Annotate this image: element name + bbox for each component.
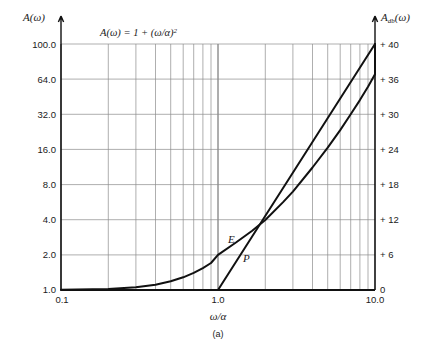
y-tick-label: 32.0: [38, 109, 57, 120]
curve-annotation-E: E: [227, 233, 235, 245]
x-tick-label: 0.1: [55, 294, 68, 305]
y-tick-label-db: + 6: [380, 249, 393, 260]
x-tick-label: 1.0: [211, 294, 224, 305]
x-tick-label: 10.0: [366, 294, 385, 305]
y-tick-label: 8.0: [43, 179, 56, 190]
y-tick-label: 64.0: [38, 74, 57, 85]
chart-svg: A(ω) = 1 + (ω/α)2 A(ω) Adb(ω) 100.0 64.0…: [0, 0, 436, 348]
y-tick-label-db: + 40: [380, 39, 399, 50]
y-axis-title-left: A(ω): [22, 11, 45, 24]
y-axis-title-right: Adb(ω): [380, 11, 410, 25]
y-tick-label: 1.0: [43, 284, 56, 295]
bode-magnitude-figure: A(ω) = 1 + (ω/α)2 A(ω) Adb(ω) 100.0 64.0…: [0, 0, 436, 348]
x-axis-title: ω/α: [210, 310, 227, 322]
figure-caption: (a): [213, 329, 224, 339]
y-tick-label-db: + 24: [380, 144, 399, 155]
y-tick-label-db: + 30: [380, 109, 399, 120]
y-tick-label-db: + 36: [380, 74, 399, 85]
y-tick-label-db: + 18: [380, 179, 399, 190]
y-tick-label-db: + 12: [380, 214, 399, 225]
equation-title: A(ω) = 1 + (ω/α)2: [99, 27, 178, 39]
curve-annotation-P: P: [242, 252, 250, 264]
y-tick-label: 4.0: [43, 214, 56, 225]
y-tick-label: 2.0: [43, 249, 56, 260]
y-tick-label: 100.0: [32, 39, 56, 50]
y-tick-label: 16.0: [38, 144, 57, 155]
